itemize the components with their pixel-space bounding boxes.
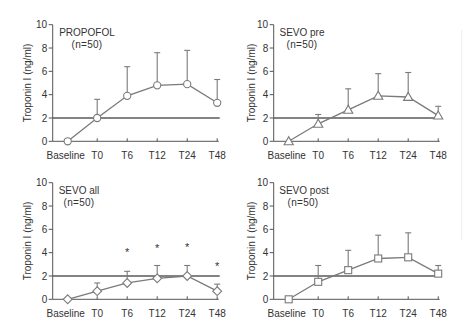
circle-marker [184, 81, 191, 88]
y-tick-label: 2 [263, 271, 269, 282]
x-tick-label: Baseline [47, 308, 86, 319]
x-tick-label: T0 [312, 308, 324, 319]
y-tick-label: 8 [42, 43, 48, 54]
x-tick-label: T48 [209, 308, 227, 319]
circle-marker [64, 138, 71, 145]
y-tick-label: 8 [263, 43, 269, 54]
y-tick-label: 0 [263, 294, 269, 305]
figure: PROPOFOL (n=50) Troponin I (ng/ml) 02468… [0, 0, 464, 326]
y-tick-label: 8 [42, 201, 48, 212]
x-tick-label: T12 [370, 308, 388, 319]
y-axis-label: Troponin I (ng/ml) [246, 44, 257, 123]
x-tick-label: T12 [370, 150, 388, 161]
y-tick-label: 4 [263, 89, 269, 100]
x-tick-label: T12 [149, 308, 167, 319]
y-tick-label: 6 [263, 224, 269, 235]
x-tick-label: T48 [430, 150, 448, 161]
y-tick-label: 10 [257, 19, 269, 30]
circle-marker [214, 99, 221, 106]
x-tick-label: T24 [400, 150, 418, 161]
x-tick-label: T0 [91, 308, 103, 319]
x-tick-label: Baseline [268, 308, 307, 319]
x-tick-label: T0 [312, 150, 324, 161]
y-axis-label: Troponin I (ng/ml) [22, 202, 33, 281]
panel-title: SEVO post [279, 185, 329, 196]
y-tick-label: 10 [36, 177, 48, 188]
panel-title: SEVO all [59, 185, 100, 196]
significance-asterisk: * [125, 246, 130, 258]
x-tick-label: Baseline [47, 150, 86, 161]
circle-marker [124, 92, 131, 99]
panel-title: PROPOFOL [59, 27, 115, 38]
panel-subtitle: (n=50) [287, 39, 318, 50]
y-tick-label: 6 [263, 66, 269, 77]
x-tick-label: Baseline [268, 150, 307, 161]
x-tick-label: T12 [149, 150, 167, 161]
figure-background [0, 0, 464, 326]
x-tick-label: T48 [209, 150, 227, 161]
x-tick-label: T6 [342, 308, 354, 319]
significance-asterisk: * [185, 241, 190, 253]
x-tick-label: T24 [179, 150, 197, 161]
x-tick-label: T24 [179, 308, 197, 319]
y-tick-label: 4 [42, 247, 48, 258]
y-tick-label: 0 [42, 136, 48, 147]
y-tick-label: 2 [263, 113, 269, 124]
y-tick-label: 2 [42, 271, 48, 282]
panel-subtitle: (n=50) [72, 39, 103, 50]
panel-subtitle: (n=50) [64, 197, 95, 208]
square-marker [435, 270, 442, 277]
square-marker [345, 267, 352, 274]
circle-marker [154, 82, 161, 89]
y-axis-label: Troponin I (ng/ml) [22, 44, 33, 123]
y-tick-label: 8 [263, 201, 269, 212]
x-tick-label: T0 [91, 150, 103, 161]
circle-marker [94, 114, 101, 121]
panel-subtitle: (n=50) [288, 197, 319, 208]
x-tick-label: T24 [400, 308, 418, 319]
square-marker [315, 278, 322, 285]
x-tick-label: T6 [342, 150, 354, 161]
x-tick-label: T6 [121, 308, 133, 319]
y-tick-label: 10 [257, 177, 269, 188]
x-tick-label: T6 [121, 150, 133, 161]
panel-title: SEVO pre [279, 27, 324, 38]
y-tick-label: 4 [42, 89, 48, 100]
x-tick-label: T48 [430, 308, 448, 319]
y-tick-label: 0 [42, 294, 48, 305]
square-marker [375, 255, 382, 262]
y-tick-label: 10 [36, 19, 48, 30]
y-axis-label: Troponin I (ng/ml) [246, 202, 257, 281]
square-marker [285, 296, 292, 303]
square-marker [405, 254, 412, 261]
y-tick-label: 2 [42, 113, 48, 124]
significance-asterisk: * [215, 260, 220, 272]
y-tick-label: 6 [42, 66, 48, 77]
significance-asterisk: * [155, 242, 160, 254]
y-tick-label: 4 [263, 247, 269, 258]
y-tick-label: 0 [263, 136, 269, 147]
y-tick-label: 6 [42, 224, 48, 235]
